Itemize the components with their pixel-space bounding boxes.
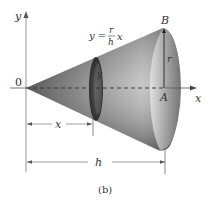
h-dim-arrow-right-icon: [160, 160, 165, 163]
h-dimension-label: h: [95, 156, 102, 169]
equation-denominator: h: [108, 37, 114, 47]
cone: [26, 28, 181, 151]
y-axis-label: y: [14, 10, 22, 23]
x-dimension-label: x: [55, 118, 62, 131]
equation-lhs: y =: [88, 30, 106, 41]
y-axis-arrow-icon: [24, 11, 29, 18]
point-b-label: B: [160, 14, 169, 27]
line-equation: y = r h x: [88, 25, 123, 47]
h-dim-arrow-left-icon: [27, 160, 32, 163]
figure-caption: (b): [98, 184, 112, 195]
point-a-label: A: [159, 91, 168, 104]
cone-volume-diagram: y x 0 B A r y y = r h x x h (b): [0, 0, 208, 204]
x-axis-arrow-icon: [190, 86, 197, 91]
disk-radius-label: y: [96, 69, 103, 79]
x-axis-label: x: [195, 92, 202, 105]
equation-numerator: r: [109, 25, 114, 35]
origin-label: 0: [15, 76, 22, 89]
equation-variable: x: [117, 31, 123, 42]
x-dim-arrow-right-icon: [87, 122, 92, 125]
x-dim-arrow-left-icon: [27, 122, 32, 125]
